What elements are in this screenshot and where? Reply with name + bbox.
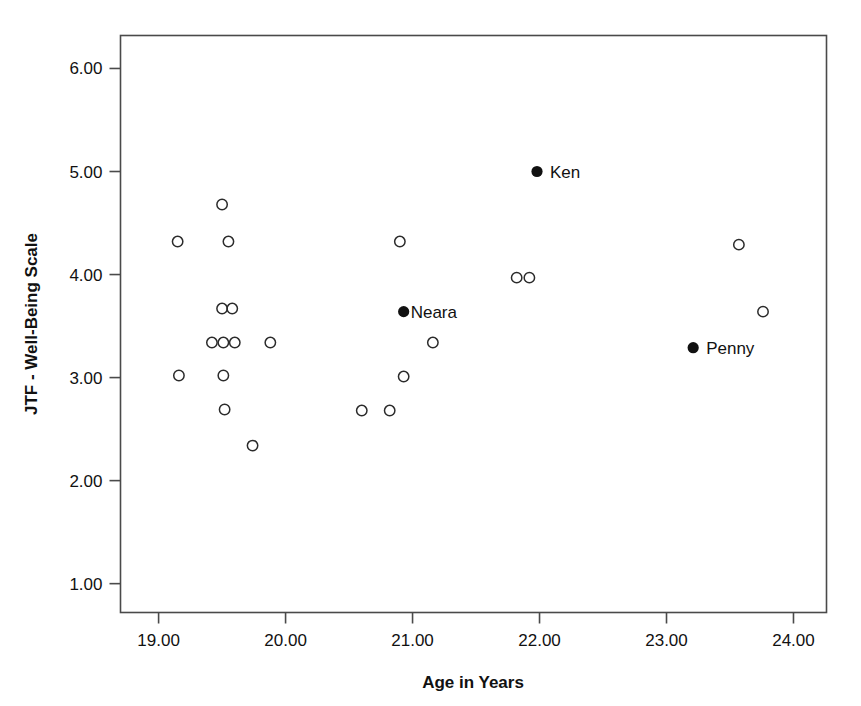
x-tick-label: 20.00 (264, 631, 307, 650)
data-point-label: Ken (550, 163, 580, 182)
y-tick-label: 1.00 (69, 575, 102, 594)
data-point-filled (688, 342, 699, 353)
y-tick-label: 5.00 (69, 163, 102, 182)
y-axis-title: JTF - Well-Being Scale (22, 233, 41, 415)
data-point-filled (398, 306, 409, 317)
y-tick-label: 2.00 (69, 472, 102, 491)
x-tick-label: 21.00 (391, 631, 434, 650)
scatter-plot-figure: 1.002.003.004.005.006.00 19.0020.0021.00… (0, 0, 861, 706)
x-tick-label: 19.00 (137, 631, 180, 650)
data-point-label: Penny (706, 339, 755, 358)
x-tick-label: 22.00 (518, 631, 561, 650)
y-tick-label: 4.00 (69, 266, 102, 285)
scatter-plot-canvas: 1.002.003.004.005.006.00 19.0020.0021.00… (0, 0, 861, 706)
y-tick-label: 3.00 (69, 369, 102, 388)
x-tick-label: 23.00 (645, 631, 688, 650)
y-tick-label: 6.00 (69, 59, 102, 78)
x-tick-label: 24.00 (772, 631, 815, 650)
x-axis-title: Age in Years (422, 673, 524, 692)
data-point-label: Neara (411, 303, 458, 322)
data-point-filled (531, 166, 542, 177)
